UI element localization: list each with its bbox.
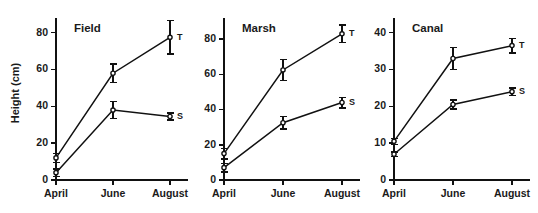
chart-svg-marsh: 020406080AprilJuneAugustMarshTS: [192, 0, 368, 213]
chart-panel-marsh: 020406080AprilJuneAugustMarshTS: [192, 0, 368, 213]
y-tick-label: 60: [204, 67, 216, 79]
data-point: [168, 114, 172, 118]
data-point: [281, 121, 285, 125]
y-tick-label: 20: [374, 99, 386, 111]
x-tick-label: August: [152, 187, 189, 199]
axis-spines: [56, 18, 188, 180]
data-point: [168, 35, 172, 39]
y-tick-label: 30: [374, 62, 386, 74]
series-line-S: [56, 110, 170, 173]
chart-panel-field: 020406080AprilJuneAugustFieldTS: [28, 0, 198, 213]
y-tick-label: 20: [204, 138, 216, 150]
x-tick-label: April: [212, 187, 236, 199]
panel-title: Field: [74, 22, 101, 34]
data-point: [281, 68, 285, 72]
data-point: [340, 100, 344, 104]
series-line-T: [224, 34, 342, 154]
panel-title: Marsh: [242, 22, 276, 34]
series-label-T: T: [177, 32, 183, 42]
y-tick-label: 60: [36, 62, 48, 74]
x-tick-label: April: [382, 187, 406, 199]
y-tick-label: 40: [36, 99, 48, 111]
figure-container: Height (cm) 020406080AprilJuneAugustFiel…: [0, 0, 538, 213]
panel-title: Canal: [412, 22, 443, 34]
x-tick-label: August: [494, 187, 531, 199]
series-label-T: T: [349, 28, 355, 38]
data-point: [222, 151, 226, 155]
data-point: [54, 171, 58, 175]
data-point: [54, 156, 58, 160]
data-point: [510, 44, 514, 48]
x-tick-label: August: [324, 187, 361, 199]
y-tick-label: 10: [374, 136, 386, 148]
series-label-S: S: [177, 111, 183, 121]
x-tick-label: June: [101, 187, 126, 199]
y-tick-label: 0: [42, 173, 48, 185]
y-tick-label: 0: [210, 173, 216, 185]
series-label-S: S: [519, 86, 525, 96]
data-point: [111, 108, 115, 112]
chart-panel-canal: 010203040AprilJuneAugustCanalTS: [362, 0, 538, 213]
series-line-T: [56, 37, 170, 158]
data-point: [392, 152, 396, 156]
y-axis-label-text: Height (cm): [9, 62, 21, 123]
x-tick-label: April: [44, 187, 68, 199]
axis-spines: [394, 18, 530, 180]
y-tick-label: 80: [204, 32, 216, 44]
x-tick-label: June: [441, 187, 466, 199]
data-point: [451, 102, 455, 106]
data-point: [111, 71, 115, 75]
y-axis-label: Height (cm): [0, 0, 30, 185]
x-tick-label: June: [271, 187, 296, 199]
series-line-S: [224, 103, 342, 168]
y-tick-label: 0: [380, 173, 386, 185]
data-point: [340, 32, 344, 36]
y-tick-label: 80: [36, 26, 48, 38]
chart-svg-field: 020406080AprilJuneAugustFieldTS: [28, 0, 198, 213]
y-tick-label: 40: [374, 26, 386, 38]
y-tick-label: 20: [36, 136, 48, 148]
data-point: [222, 166, 226, 170]
y-tick-label: 40: [204, 102, 216, 114]
data-point: [392, 139, 396, 143]
data-point: [510, 90, 514, 94]
series-label-S: S: [349, 97, 355, 107]
series-label-T: T: [519, 40, 525, 50]
data-point: [451, 56, 455, 60]
chart-svg-canal: 010203040AprilJuneAugustCanalTS: [362, 0, 538, 213]
